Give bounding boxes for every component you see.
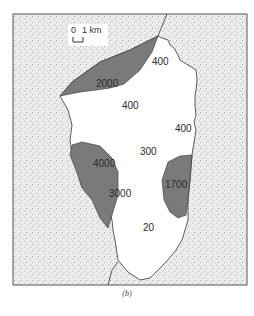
label-4000: 4000 xyxy=(93,159,115,169)
label-400-east: 400 xyxy=(175,124,192,134)
figure-caption: (b) xyxy=(0,289,254,298)
label-3000: 3000 xyxy=(109,189,131,199)
map-figure xyxy=(0,0,254,316)
label-2000: 2000 xyxy=(96,79,118,89)
label-400-ne: 400 xyxy=(152,57,169,67)
label-20: 20 xyxy=(143,223,154,233)
label-1700: 1700 xyxy=(165,180,187,190)
caption-text: (b) xyxy=(122,289,131,298)
scale-start-label: 0 xyxy=(71,25,76,35)
scale-end-label: 1 km xyxy=(82,25,102,35)
label-400-center: 400 xyxy=(122,101,139,111)
label-300: 300 xyxy=(140,147,157,157)
